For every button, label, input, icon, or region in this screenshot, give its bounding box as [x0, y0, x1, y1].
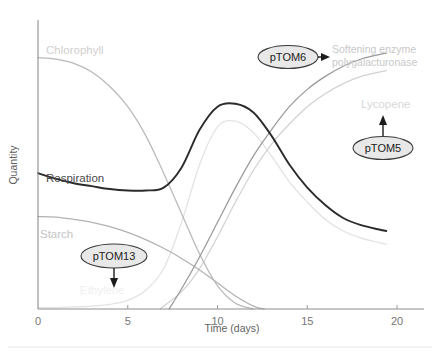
y-axis-title: Quantity — [7, 145, 19, 185]
series-label-lycopene: Lycopene — [361, 98, 410, 110]
x-tick-label-15: 15 — [301, 315, 313, 327]
x-tick-label-0: 0 — [35, 315, 41, 327]
x-tick-label-20: 20 — [391, 315, 403, 327]
series-label-starch: Starch — [40, 228, 73, 240]
series-label-enzyme-line2: polygalacturonase — [332, 56, 417, 68]
callout-ptom13-label: pTOM13 — [93, 250, 136, 262]
callout-ptom5-label: pTOM5 — [365, 142, 401, 154]
series-label-respiration: Respiration — [46, 172, 104, 184]
figure-container: 05101520 Time (days) Quantity Chlorophyl… — [0, 0, 440, 355]
callout-ptom6-label: pTOM6 — [270, 51, 306, 63]
series-label-chlorophyll: Chlorophyll — [46, 44, 104, 56]
x-axis-title: Time (days) — [204, 322, 259, 334]
series-label-enzyme-line1: Softening enzyme — [332, 43, 416, 55]
series-label-ethylene: Ethylene — [80, 284, 125, 296]
ripening-chart: 05101520 Time (days) Quantity Chlorophyl… — [0, 0, 440, 355]
x-tick-label-5: 5 — [125, 315, 131, 327]
